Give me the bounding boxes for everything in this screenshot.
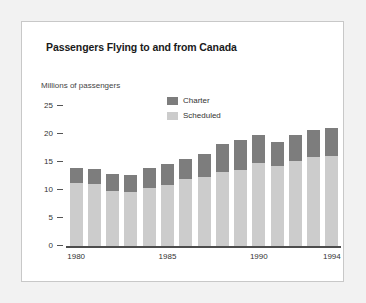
- y-axis-tick-mark: [57, 245, 63, 246]
- x-axis-tick-label: 1990: [250, 252, 268, 261]
- y-axis-tick-mark: [57, 161, 63, 162]
- chart-figure: Passengers Flying to and from Canada Mil…: [21, 21, 344, 282]
- x-axis-tick-label: 1985: [159, 252, 177, 261]
- bar-1991: [271, 142, 284, 246]
- bar-segment-charter: [161, 164, 174, 185]
- bar-segment-charter: [143, 168, 156, 188]
- bar-1988: [216, 144, 229, 246]
- bar-segment-scheduled: [234, 170, 247, 246]
- bar-segment-charter: [289, 135, 302, 162]
- bar-segment-charter: [179, 159, 192, 179]
- bar-segment-scheduled: [252, 163, 265, 246]
- y-axis-tick: 20: [22, 129, 67, 139]
- y-axis-tick-label: 20: [44, 129, 53, 139]
- y-axis-tick-label: 5: [49, 213, 53, 223]
- y-axis-tick-mark: [57, 217, 63, 218]
- bar-segment-charter: [216, 144, 229, 171]
- bar-segment-charter: [88, 169, 101, 184]
- bar-1983: [124, 175, 137, 246]
- bar-segment-scheduled: [143, 188, 156, 246]
- bar-segment-charter: [124, 175, 137, 192]
- bar-segment-scheduled: [198, 177, 211, 246]
- bar-segment-scheduled: [325, 156, 338, 246]
- bar-1994: [325, 128, 338, 246]
- y-axis-tick: 25: [22, 101, 67, 111]
- bar-segment-scheduled: [106, 191, 119, 246]
- bar-segment-charter: [234, 140, 247, 170]
- y-axis-tick: 0: [22, 241, 67, 251]
- y-axis-tick-mark: [57, 105, 63, 106]
- bar-series-group: [67, 22, 341, 246]
- y-axis-tick: 15: [22, 157, 67, 167]
- bar-segment-scheduled: [307, 157, 320, 246]
- bar-segment-charter: [198, 154, 211, 178]
- y-axis-tick: 5: [22, 213, 67, 223]
- bar-segment-scheduled: [216, 172, 229, 246]
- bar-segment-scheduled: [179, 179, 192, 246]
- bar-1986: [179, 159, 192, 246]
- bar-segment-charter: [70, 168, 83, 183]
- bar-1990: [252, 135, 265, 246]
- bar-segment-scheduled: [124, 192, 137, 246]
- bar-1985: [161, 164, 174, 246]
- bar-segment-charter: [271, 142, 284, 167]
- x-axis-tick-label: 1994: [323, 252, 341, 261]
- y-axis-tick-mark: [57, 133, 63, 134]
- bar-segment-charter: [106, 174, 119, 190]
- bar-segment-scheduled: [289, 161, 302, 246]
- bar-segment-scheduled: [88, 184, 101, 246]
- y-axis-tick-label: 0: [49, 241, 53, 251]
- bar-segment-scheduled: [161, 185, 174, 246]
- bar-segment-charter: [252, 135, 265, 164]
- bar-segment-charter: [307, 130, 320, 157]
- bar-1987: [198, 154, 211, 246]
- bar-segment-charter: [325, 128, 338, 156]
- bar-1982: [106, 174, 119, 246]
- bar-1984: [143, 168, 156, 246]
- bar-segment-scheduled: [271, 166, 284, 246]
- plot-area: 0510152025 1980198519901994: [22, 22, 345, 283]
- y-axis-tick-mark: [57, 189, 63, 190]
- y-axis-tick: 10: [22, 185, 67, 195]
- y-axis-tick-label: 15: [44, 157, 53, 167]
- bar-1992: [289, 135, 302, 246]
- bar-1989: [234, 140, 247, 246]
- y-axis-tick-label: 25: [44, 101, 53, 111]
- x-axis-line: [66, 246, 341, 248]
- bar-1993: [307, 130, 320, 246]
- bar-1981: [88, 169, 101, 246]
- y-axis-tick-label: 10: [44, 185, 53, 195]
- x-axis-tick-label: 1980: [67, 252, 85, 261]
- bar-1980: [70, 168, 83, 246]
- bar-segment-scheduled: [70, 183, 83, 246]
